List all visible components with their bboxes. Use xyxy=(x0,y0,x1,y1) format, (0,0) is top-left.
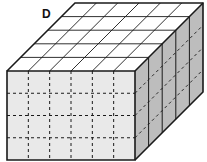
figure-label: D xyxy=(42,8,51,20)
prism-figure: D xyxy=(0,0,207,162)
rectangular-prism-diagram xyxy=(0,0,207,162)
